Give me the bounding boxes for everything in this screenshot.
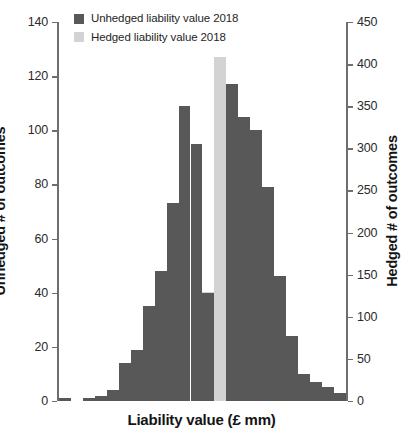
axis-tick-label: 250	[357, 184, 377, 197]
bar-unhedged	[83, 398, 95, 401]
bar-group	[238, 22, 250, 401]
bar-hedged	[214, 57, 226, 401]
bar-unhedged	[322, 387, 334, 401]
axis-tick	[348, 401, 353, 402]
axis-tick	[348, 275, 353, 276]
bar-group	[155, 22, 167, 401]
axis-tick	[348, 22, 353, 23]
bar-unhedged	[191, 144, 203, 401]
bars-layer	[59, 22, 347, 401]
axis-tick	[52, 22, 57, 23]
axis-tick	[348, 359, 353, 360]
axis-tick-label: 400	[357, 58, 377, 71]
bar-unhedged	[334, 393, 346, 401]
axis-tick-label: 450	[357, 16, 377, 29]
bar-group	[59, 22, 71, 401]
bar-unhedged	[250, 130, 262, 401]
bar-group	[131, 22, 143, 401]
axis-tick-label: 140	[28, 16, 48, 29]
bar-unhedged	[143, 306, 155, 401]
bar-unhedged	[226, 84, 238, 401]
bar-unhedged	[298, 374, 310, 401]
bar-group	[107, 22, 119, 401]
bar-unhedged	[274, 276, 286, 401]
axis-tick-label: 150	[357, 268, 377, 281]
bar-group	[71, 22, 83, 401]
bar-group	[262, 22, 274, 401]
bar-group	[322, 22, 334, 401]
bar-group	[119, 22, 131, 401]
axis-tick	[52, 130, 57, 131]
axis-tick	[348, 233, 353, 234]
axis-tick	[348, 190, 353, 191]
bar-unhedged	[95, 396, 107, 401]
bar-group	[95, 22, 107, 401]
bar-group	[191, 22, 203, 401]
bar-group	[226, 22, 238, 401]
bar-unhedged	[167, 203, 179, 401]
axis-tick-label: 0	[357, 395, 364, 408]
axis-tick-label: 80	[34, 178, 48, 191]
bar-group	[179, 22, 191, 401]
axis-tick	[52, 184, 57, 185]
axis-tick-label: 0	[41, 395, 48, 408]
y-axis-right-title: Hedged # of outcomes	[384, 91, 400, 331]
bar-group	[298, 22, 310, 401]
bar-group	[83, 22, 95, 401]
bar-group	[274, 22, 286, 401]
axis-tick	[52, 347, 57, 348]
bar-unhedged	[286, 336, 298, 401]
axis-tick	[348, 148, 353, 149]
bar-group	[334, 22, 346, 401]
bar-unhedged	[119, 363, 131, 401]
axis-tick-label: 20	[34, 341, 48, 354]
axis-tick	[348, 64, 353, 65]
plot-area: 020406080100120140 050100150200250300350…	[57, 22, 348, 401]
bar-unhedged	[238, 117, 250, 401]
chart-figure: Unhedged liability value 2018 Hedged lia…	[0, 0, 403, 437]
bar-group	[286, 22, 298, 401]
axis-tick-label: 100	[357, 311, 377, 324]
bar-unhedged	[59, 398, 71, 401]
bar-group	[310, 22, 322, 401]
bar-unhedged	[155, 271, 167, 401]
y-axis-right-line	[346, 22, 348, 401]
bar-unhedged	[179, 106, 191, 401]
axis-tick	[52, 293, 57, 294]
axis-tick	[348, 317, 353, 318]
bar-group	[214, 22, 226, 401]
axis-tick	[52, 239, 57, 240]
bar-group	[167, 22, 179, 401]
axis-tick-label: 120	[28, 70, 48, 83]
bar-unhedged	[310, 382, 322, 401]
bar-unhedged	[262, 187, 274, 401]
bar-group	[202, 22, 214, 401]
axis-tick-label: 60	[34, 232, 48, 245]
bar-group	[143, 22, 155, 401]
axis-tick	[52, 401, 57, 402]
y-axis-left-title: Unhedged # of outcomes	[0, 91, 8, 331]
bar-group	[250, 22, 262, 401]
axis-tick-label: 40	[34, 286, 48, 299]
bar-unhedged	[131, 350, 143, 401]
x-axis-title: Liability value (£ mm)	[0, 411, 403, 428]
axis-tick-label: 350	[357, 100, 377, 113]
axis-tick-label: 300	[357, 142, 377, 155]
bar-unhedged	[202, 293, 214, 401]
axis-tick	[348, 106, 353, 107]
bar-unhedged	[107, 390, 119, 401]
axis-tick	[52, 76, 57, 77]
axis-tick-label: 50	[357, 353, 371, 366]
axis-tick-label: 100	[28, 124, 48, 137]
axis-tick-label: 200	[357, 226, 377, 239]
